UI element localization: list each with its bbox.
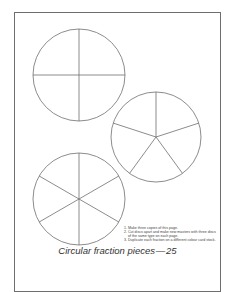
instruction-text: Cut discs apart and make new masters wit…: [128, 230, 216, 238]
instruction-item: 2. Cut discs apart and make new masters …: [124, 230, 216, 238]
instruction-item: 3. Duplicate each fraction on a differen…: [124, 238, 216, 242]
disc-quarters: [33, 29, 125, 121]
disc-fifths: [111, 92, 201, 182]
page-title: Circular fraction pieces — 25: [0, 245, 235, 256]
instructions-list: 1. Make three copies of this page. 2. Cu…: [124, 226, 216, 242]
instruction-text: Duplicate each fraction on a different c…: [128, 238, 216, 242]
disc-sixths: [33, 153, 125, 245]
